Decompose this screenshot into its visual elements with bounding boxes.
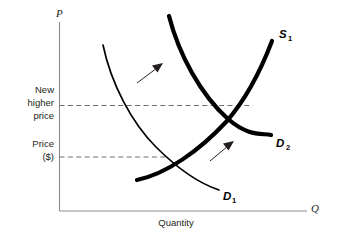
- demand-curve-1-label-sub: 1: [232, 196, 236, 205]
- demand-curve-1: [103, 45, 219, 190]
- price-label-high-line2: higher: [28, 97, 54, 108]
- x-axis-symbol: Q: [311, 202, 319, 214]
- demand-curve-1-label: D 1: [223, 190, 236, 205]
- y-axis-symbol: P: [55, 7, 63, 19]
- demand-curve-1-label-main: D: [223, 190, 231, 202]
- shift-arrow-lower: [210, 141, 234, 161]
- shift-arrow-upper: [137, 63, 163, 83]
- price-label-base-line1: Price: [32, 138, 54, 149]
- demand-curve-2-label-main: D: [276, 137, 284, 149]
- price-label-base-line2: ($): [42, 151, 54, 162]
- supply-curve-1: [137, 41, 272, 180]
- price-label-high-line3: price: [33, 110, 54, 121]
- demand-curve-2-label: D 2: [276, 137, 290, 152]
- x-axis-caption: Quantity: [158, 217, 194, 228]
- supply-curve-1-label-main: S: [279, 28, 287, 40]
- supply-demand-figure: P Q Quantity New higher price Price ($) …: [0, 0, 339, 239]
- price-label-high-line1: New: [35, 84, 54, 95]
- supply-curve-1-label-sub: 1: [288, 34, 292, 43]
- supply-curve-1-label: S 1: [279, 28, 292, 43]
- figure-canvas: P Q Quantity New higher price Price ($) …: [0, 0, 339, 239]
- demand-curve-2-label-sub: 2: [286, 143, 290, 152]
